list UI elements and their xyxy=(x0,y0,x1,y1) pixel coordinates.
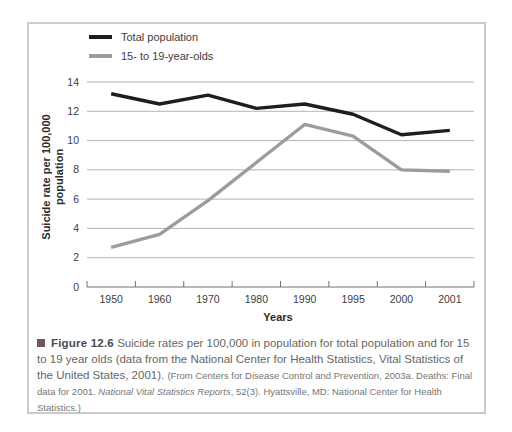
y-tick-label: 6 xyxy=(73,193,79,205)
x-tick-label: 1960 xyxy=(148,293,172,305)
chart-svg: Years 0246810121419501960197019801990199… xyxy=(29,24,484,332)
y-tick-label: 10 xyxy=(67,134,79,146)
y-tick-label: 12 xyxy=(67,105,79,117)
caption-source-journal: National Vital Statistics Reports xyxy=(98,386,230,397)
x-tick-label: 1950 xyxy=(100,293,124,305)
figure-box: Total population 15- to 19-year-olds Sui… xyxy=(27,22,486,414)
y-tick-label: 0 xyxy=(73,281,79,293)
figure-marker-square xyxy=(37,339,45,347)
series-line-0 xyxy=(111,94,450,135)
y-tick-label: 2 xyxy=(73,251,79,263)
x-tick-label: 1990 xyxy=(293,293,317,305)
y-tick-label: 4 xyxy=(73,222,79,234)
x-axis-title: Years xyxy=(263,311,292,323)
x-tick-label: 2000 xyxy=(390,293,414,305)
x-tick-label: 1970 xyxy=(196,293,220,305)
figure-caption: Figure 12.6 Suicide rates per 100,000 in… xyxy=(37,335,479,415)
x-tick-label: 2001 xyxy=(438,293,462,305)
y-tick-label: 8 xyxy=(73,163,79,175)
x-tick-label: 1980 xyxy=(245,293,269,305)
y-tick-label: 14 xyxy=(67,76,79,88)
page: { "figure": { "label": "Figure 12.6", "c… xyxy=(0,0,512,432)
figure-number: Figure 12.6 xyxy=(51,337,114,349)
x-tick-label: 1995 xyxy=(341,293,365,305)
series-line-1 xyxy=(111,124,450,247)
